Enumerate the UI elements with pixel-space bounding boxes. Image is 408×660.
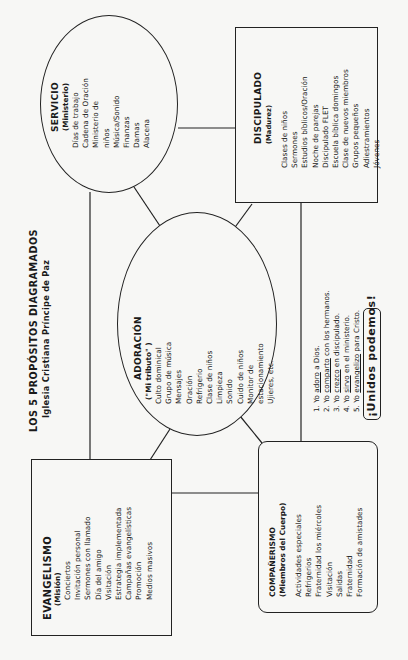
step-1: 1. Yo adoro a Dios. [312, 290, 322, 412]
adoracion-title: ADORACIÓN [133, 234, 144, 404]
list-item: Visitación [104, 490, 114, 600]
list-item: Medios masivos [145, 490, 155, 600]
list-item: Actividades especiales [294, 447, 304, 597]
list-item: Fraternidad los miércoles [314, 447, 324, 597]
list-item: Música/Sonido [112, 42, 122, 148]
list-item: Grupo de música [164, 234, 174, 404]
list-item: estacionamiento [256, 234, 266, 404]
slogan-badge: ¡Unidos podemos! [363, 308, 381, 420]
list-item: Jóvenes [372, 8, 382, 168]
list-item: niños [102, 42, 112, 148]
list-item: Refrigerio [195, 234, 205, 404]
list-item: Clases de niños [280, 8, 290, 168]
list-item: Fraternidad [345, 447, 355, 597]
list-item: Invitación personal [73, 490, 83, 600]
title-line-2: Iglesia Cristiana Príncipe de Paz [40, 229, 53, 432]
list-item: Oración [185, 234, 195, 404]
servicio-text: SERVICIO (Ministerio) Días de trabajo Ca… [50, 42, 153, 172]
list-item: Salidas [335, 447, 345, 597]
adoracion-subtitle: ("Mi tributo" ) [144, 234, 154, 404]
list-item: Conciertos [63, 490, 73, 600]
evangelismo-subtitle: (Misión) [53, 490, 63, 620]
list-item: Sermones [290, 8, 300, 168]
list-item: Días de trabajo [71, 42, 81, 148]
discipulado-text: DISCIPULADO (Madurez) Clases de niños Se… [253, 8, 382, 168]
list-item: Limpieza [215, 234, 225, 404]
step-2: 2. Yo comparto con los hermanos. [322, 290, 332, 412]
servicio-subtitle: (Ministerio) [61, 42, 71, 172]
evangelismo-title: EVANGELISMO [42, 490, 53, 620]
step-4: 4. Yo sirvo en el ministerio. [342, 290, 352, 412]
list-item: Formación de amistades [355, 447, 365, 597]
slogan-text: ¡Unidos podemos! [365, 295, 378, 417]
list-item: Cadena de Oración [81, 42, 91, 148]
list-item: Damas [132, 42, 142, 148]
list-item: Adiestramientos [362, 8, 372, 168]
list-item: Clase de nuevos miembros [341, 8, 351, 168]
list-item: Noche de parejas [311, 8, 321, 168]
list-item: Día del amigo [94, 490, 104, 600]
step-5: 5. Yo evangelizo para Cristo. [352, 290, 362, 412]
page-title: LOS 5 PROPÓSITOS DIAGRAMADOS Iglesia Cri… [27, 229, 53, 432]
list-item: Monitor de [246, 234, 256, 404]
discipulado-title: DISCIPULADO [253, 8, 264, 168]
title-line-1: LOS 5 PROPÓSITOS DIAGRAMADOS [27, 229, 40, 432]
discipulado-subtitle: (Madurez) [264, 8, 274, 168]
list-item: Escuela bíblica domingos [331, 8, 341, 168]
list-item: Clase de niños [205, 234, 215, 404]
list-item: Cuido de niños [236, 234, 246, 404]
list-item: Estudios bíblicos/Oración [300, 8, 310, 168]
list-item: Refrigerios [304, 447, 314, 597]
purpose-steps-list: 1. Yo adoro a Dios. 2. Yo comparto con l… [312, 290, 362, 412]
list-item: Grupos pequeños [351, 8, 361, 168]
step-3: 3. Yo crezco en discipulado. [332, 290, 342, 412]
evangelismo-text: EVANGELISMO (Misión) Conciertos Invitaci… [42, 490, 155, 620]
list-item: Ujieres, etc. [266, 234, 276, 404]
list-item: Campañas evangelísticas [124, 490, 134, 600]
list-item: Estrategia implementada [114, 490, 124, 600]
list-item: Visitación [325, 447, 335, 597]
companerismo-text: COMPAÑERISMO (Miembros del Cuerpo) Activ… [268, 447, 365, 597]
list-item: Discipulado FLET [321, 8, 331, 168]
adoracion-text: ADORACIÓN ("Mi tributo" ) Culto dominica… [133, 234, 276, 404]
list-item: Mensajes [174, 234, 184, 404]
list-item: Sermones con llamado [83, 490, 93, 600]
list-item: Promoción [134, 490, 144, 600]
companerismo-title: COMPAÑERISMO [268, 447, 278, 597]
list-item: Alacena [142, 42, 152, 148]
companerismo-subtitle: (Miembros del Cuerpo) [278, 447, 288, 597]
list-item: Ministerio de [91, 42, 101, 148]
five-purposes-diagram: SERVICIO (Ministerio) Días de trabajo Ca… [0, 0, 408, 660]
servicio-title: SERVICIO [50, 42, 61, 172]
list-item: Finanzas [122, 42, 132, 148]
list-item: Culto dominical [154, 234, 164, 404]
list-item: Sonido [225, 234, 235, 404]
